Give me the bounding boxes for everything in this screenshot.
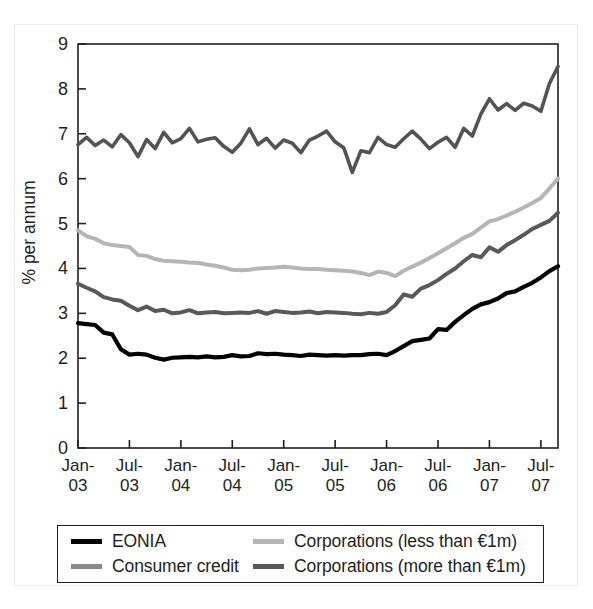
x-tick-label: Jul-03 [100,456,158,495]
x-tick-label-month: Jul- [100,456,158,476]
legend-swatch-icon [253,539,284,544]
x-tick-label: Jan-06 [358,456,416,495]
y-tick-label: 9 [46,35,68,53]
x-tick-label: Jul-05 [306,456,364,495]
y-tick-label: 6 [46,170,68,188]
y-tick-label: 0 [46,439,68,457]
series-line-3 [78,213,558,314]
x-tick-label-year: 07 [512,476,570,496]
legend-item: Corporations (less than €1m) [240,533,543,551]
legend-label: Corporations (less than €1m) [294,533,517,551]
x-tick-label-month: Jul- [409,456,467,476]
legend-item: EONIA [58,533,240,551]
x-tick-label-month: Jul- [306,456,364,476]
figure-panel: % per annum 0123456789 Jan-03Jul-03Jan-0… [0,0,593,609]
x-tick-label-month: Jan- [358,456,416,476]
x-tick-label-month: Jul- [512,456,570,476]
x-tick-label-month: Jul- [203,456,261,476]
y-tick-label: 1 [46,394,68,412]
y-tick-label: 7 [46,125,68,143]
x-tick-label: Jul-07 [512,456,570,495]
series-line-1 [78,66,558,172]
legend-label: Consumer credit [112,558,239,576]
y-tick-label: 3 [46,304,68,322]
y-tick-label: 2 [46,349,68,367]
y-tick-label: 5 [46,215,68,233]
legend-label: Corporations (more than €1m) [294,558,526,576]
x-tick-label-year: 05 [255,476,313,496]
x-tick-label: Jul-06 [409,456,467,495]
x-tick-label-year: 06 [409,476,467,496]
y-axis-title: % per annum [19,173,40,293]
x-tick-label-month: Jan- [460,456,518,476]
x-tick-label: Jan-04 [152,456,210,495]
x-tick-label-year: 06 [358,476,416,496]
legend-swatch-icon [71,564,102,569]
legend-label: EONIA [112,533,166,551]
x-tick-label-month: Jan- [152,456,210,476]
chart-legend: EONIACorporations (less than €1m)Consume… [57,525,544,583]
x-tick-label-year: 05 [306,476,364,496]
x-tick-label-year: 04 [203,476,261,496]
legend-item: Consumer credit [58,558,240,576]
x-tick-label-year: 04 [152,476,210,496]
x-tick-label-year: 03 [100,476,158,496]
legend-swatch-icon [253,564,284,569]
line-chart-plot [0,0,593,609]
x-tick-label: Jan-05 [255,456,313,495]
y-tick-label: 8 [46,80,68,98]
x-tick-label: Jan-07 [460,456,518,495]
x-tick-label-month: Jan- [255,456,313,476]
y-tick-label: 4 [46,259,68,277]
x-tick-label-month: Jan- [49,456,107,476]
legend-item: Corporations (more than €1m) [240,558,543,576]
x-tick-label: Jan-03 [49,456,107,495]
x-tick-label-year: 07 [460,476,518,496]
series-line-2 [78,179,558,276]
chart-series-group [78,66,558,359]
legend-swatch-icon [71,539,102,544]
x-tick-label: Jul-04 [203,456,261,495]
x-tick-label-year: 03 [49,476,107,496]
